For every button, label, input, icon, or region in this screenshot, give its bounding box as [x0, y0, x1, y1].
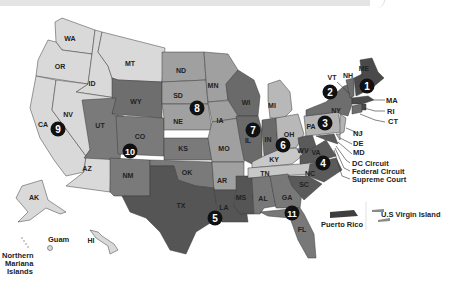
nmi-dots[interactable]: [21, 237, 29, 248]
circuit-badge-4[interactable]: 4: [316, 156, 331, 171]
circuit-badge-8[interactable]: 8: [190, 101, 205, 116]
state-label-oh: OH: [284, 131, 295, 138]
state-label-nd: ND: [176, 67, 186, 74]
svg-text:10: 10: [125, 147, 135, 157]
guam-label: Guam: [48, 235, 70, 244]
svg-text:9: 9: [55, 124, 61, 135]
circuit-badge-2[interactable]: 2: [323, 85, 338, 100]
state-label-tx: TX: [177, 202, 186, 209]
state-label-in: IN: [265, 136, 272, 143]
state-label-me: ME: [359, 65, 370, 72]
state-label-nh: NH: [343, 72, 353, 79]
guam-shape[interactable]: [48, 246, 53, 251]
circuit-badge-9[interactable]: 9: [51, 122, 66, 137]
state-label-ct: CT: [388, 117, 398, 126]
puerto-rico-shape[interactable]: [330, 210, 358, 218]
state-label-il: IL: [245, 137, 252, 144]
state-label-vt: VT: [328, 74, 338, 81]
state-label-fl: FL: [298, 226, 307, 233]
state-label-ia: IA: [217, 117, 224, 124]
circuit-badge-10[interactable]: 10: [123, 144, 138, 159]
state-label-ga: GA: [282, 194, 293, 201]
state-ma[interactable]: [352, 96, 374, 104]
svg-text:4: 4: [320, 158, 326, 169]
state-label-sd: SD: [173, 92, 183, 99]
state-label-mn: MN: [208, 82, 219, 89]
state-label-ny: NY: [331, 107, 341, 114]
state-label-ky: KY: [269, 156, 279, 163]
state-label-ks: KS: [178, 145, 188, 152]
state-label-la: LA: [219, 204, 228, 211]
circuit-badge-7[interactable]: 7: [246, 123, 261, 138]
state-label-de: DE: [353, 139, 363, 148]
state-label-sc: SC: [299, 181, 309, 188]
supreme-court-label: Supreme Court: [352, 175, 407, 184]
svg-text:2: 2: [327, 87, 333, 98]
state-label-nj: NJ: [353, 129, 363, 138]
circuit-badge-1[interactable]: 1: [360, 79, 375, 94]
state-label-az: AZ: [82, 165, 92, 172]
state-label-ut: UT: [95, 122, 105, 129]
state-label-nm: NM: [123, 172, 134, 179]
state-label-co: CO: [135, 133, 146, 140]
state-mi[interactable]: [268, 80, 292, 118]
state-ct[interactable]: [352, 104, 362, 114]
state-label-ri: RI: [387, 107, 395, 116]
svg-text:3: 3: [322, 118, 328, 129]
state-ri[interactable]: [362, 104, 366, 110]
state-label-mi: MI: [268, 102, 276, 109]
state-label-wa: WA: [64, 35, 75, 42]
state-label-wv: WV: [297, 147, 309, 154]
circuit-badge-3[interactable]: 3: [318, 116, 333, 131]
state-sd[interactable]: [162, 80, 208, 104]
state-label-or: OR: [55, 63, 66, 70]
state-label-mo: MO: [218, 145, 230, 152]
state-label-ca: CA: [38, 121, 48, 128]
circuit-badge-11[interactable]: 11: [285, 206, 300, 221]
circuit-map: WA OR ID MT CA NV AZ AK HI WY UT CO NM K…: [0, 0, 449, 284]
svg-text:11: 11: [287, 209, 297, 219]
svg-text:6: 6: [280, 140, 286, 151]
svg-text:7: 7: [250, 125, 256, 136]
state-label-mt: MT: [125, 60, 136, 67]
state-label-va: VA: [311, 149, 320, 156]
state-label-pa: PA: [306, 123, 315, 130]
state-label-md: MD: [353, 148, 365, 157]
state-label-ms: MS: [236, 194, 247, 201]
circuit-badge-5[interactable]: 5: [208, 211, 223, 226]
state-label-wi: WI: [242, 99, 251, 106]
state-nj[interactable]: [340, 114, 346, 134]
svg-text:1: 1: [364, 81, 370, 92]
state-de[interactable]: [336, 134, 340, 140]
puerto-rico-label: Puerto Rico: [321, 220, 364, 229]
state-label-tn: TN: [260, 170, 269, 177]
state-ak[interactable]: [16, 180, 66, 222]
state-label-ar: AR: [217, 177, 227, 184]
circuit-badge-6[interactable]: 6: [276, 138, 291, 153]
state-label-wy: WY: [130, 98, 142, 105]
svg-text:5: 5: [212, 213, 218, 224]
state-label-hi: HI: [88, 237, 95, 244]
state-ks[interactable]: [164, 138, 212, 160]
nmi-label-line3: Islands: [7, 267, 33, 276]
state-label-ma: MA: [386, 96, 398, 105]
state-label-ne: NE: [173, 118, 183, 125]
state-ne[interactable]: [162, 104, 212, 130]
state-label-ok: OK: [182, 169, 193, 176]
state-label-nc: NC: [305, 170, 315, 177]
state-label-nv: NV: [63, 111, 73, 118]
virgin-islands-label: U.S Virgin Island: [381, 210, 441, 219]
state-label-id: ID: [89, 80, 96, 87]
state-label-ak: AK: [29, 194, 39, 201]
svg-text:8: 8: [194, 103, 200, 114]
state-label-al: AL: [258, 195, 268, 202]
